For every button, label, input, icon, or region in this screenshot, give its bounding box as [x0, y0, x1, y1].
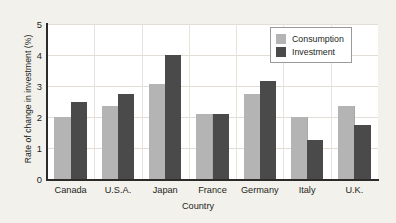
y-axis-tick-label: 4 [2, 50, 42, 61]
gridline-vertical [189, 24, 190, 179]
y-axis-tick-label: 3 [2, 81, 42, 92]
bar-consumption-usa [102, 106, 119, 179]
bar-investment-germany [260, 81, 276, 179]
bar-consumption-france [196, 114, 213, 179]
x-axis-tick-label: Japan [153, 185, 178, 195]
legend-item-consumption: Consumption [276, 32, 344, 45]
legend-item-investment: Investment [276, 45, 344, 58]
bar-investment-japan [165, 55, 181, 179]
bar-investment-uk [354, 125, 370, 179]
legend-label-consumption: Consumption [292, 34, 344, 44]
gridline-vertical [142, 24, 143, 179]
legend-swatch-consumption-icon [276, 34, 286, 44]
bar-consumption-uk [338, 106, 355, 179]
gridline-vertical [94, 24, 95, 179]
chart-legend: Consumption Investment [270, 27, 352, 63]
x-axis-tick-label: Italy [299, 185, 316, 195]
gridline-vertical [236, 24, 237, 179]
y-axis-tick-label: 0 [2, 174, 42, 185]
x-axis-title: Country [0, 201, 396, 211]
gridline-horizontal [47, 24, 378, 25]
bar-investment-italy [307, 140, 323, 179]
bar-consumption-italy [291, 117, 308, 179]
legend-swatch-investment-icon [276, 47, 286, 57]
y-axis-tick-label: 2 [2, 112, 42, 123]
x-axis-tick-label: U.S.A. [105, 185, 132, 195]
y-axis-tick-label: 1 [2, 143, 42, 154]
x-axis-tick-label: France [198, 185, 227, 195]
y-axis-tick-labels: 012345 [0, 0, 42, 223]
x-axis-tick-label: Canada [55, 185, 87, 195]
legend-label-investment: Investment [292, 47, 335, 57]
bar-investment-france [213, 114, 229, 179]
bar-chart-figure: Rate of change in investment (%) 012345 … [0, 0, 396, 223]
bar-investment-usa [118, 94, 134, 179]
bar-consumption-germany [244, 94, 261, 179]
y-axis-tick-label: 5 [2, 19, 42, 30]
bar-consumption-canada [54, 117, 71, 179]
gridline-horizontal [47, 86, 378, 87]
x-axis-tick-label: Germany [241, 185, 279, 195]
x-axis-line [46, 179, 379, 181]
bar-investment-canada [71, 102, 87, 180]
y-axis-line [46, 23, 48, 180]
x-axis-tick-label: U.K. [345, 185, 363, 195]
bar-consumption-japan [149, 84, 166, 179]
